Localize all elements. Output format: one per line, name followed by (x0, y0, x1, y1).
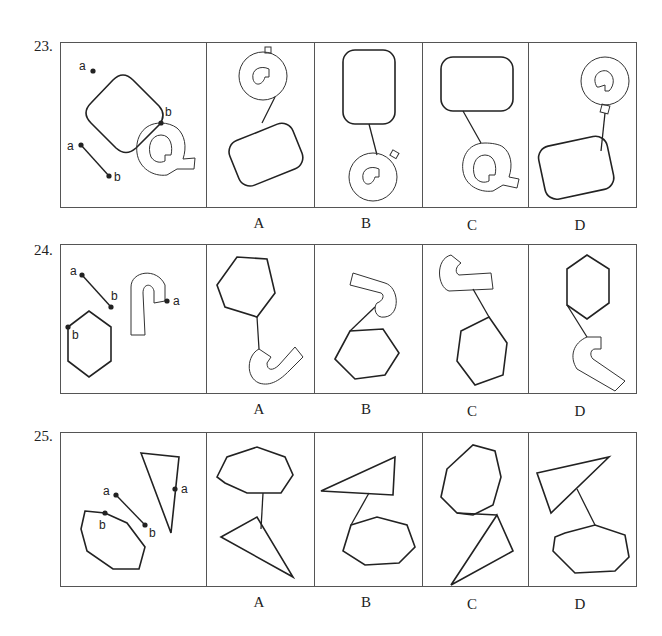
question-number-23: 23. (34, 38, 53, 55)
q24-label-c: C (452, 403, 492, 420)
q23-given-figure: a a b b (61, 43, 206, 209)
svg-text:a: a (181, 482, 188, 496)
q23-option-c[interactable] (422, 43, 529, 207)
question-24-panel: a b b a (60, 244, 637, 394)
q25-option-a[interactable] (206, 433, 315, 586)
q24-option-a[interactable] (206, 245, 315, 393)
q23-label-b: B (346, 215, 386, 232)
svg-text:a: a (79, 59, 86, 73)
svg-text:b: b (114, 170, 121, 184)
q25-option-c-figure (423, 433, 529, 588)
q23-option-a-figure (207, 43, 315, 209)
svg-text:a: a (67, 139, 74, 153)
q23-option-b-figure (315, 43, 423, 209)
question-number-24: 24. (34, 242, 53, 259)
q25-label-b: B (346, 594, 386, 611)
q23-option-c-figure (423, 43, 529, 209)
question-25-panel: a a b b (60, 432, 637, 587)
svg-text:b: b (165, 105, 172, 119)
svg-text:b: b (99, 518, 106, 532)
question-number-25: 25. (34, 428, 53, 445)
q24-option-d-figure (529, 245, 637, 395)
q23-given-cell: a a b b (61, 43, 206, 207)
q25-option-d[interactable] (528, 433, 637, 586)
q23-option-b[interactable] (314, 43, 423, 207)
q25-option-b[interactable] (314, 433, 423, 586)
q24-label-d: D (560, 403, 600, 420)
q24-label-b: B (346, 401, 386, 418)
q24-label-a: A (239, 401, 279, 418)
q24-option-b[interactable] (314, 245, 423, 393)
q24-option-d[interactable] (528, 245, 637, 393)
svg-text:b: b (149, 526, 156, 540)
q23-label-a: A (239, 215, 279, 232)
q24-option-c-figure (423, 245, 529, 395)
svg-text:a: a (173, 294, 180, 308)
q25-option-c[interactable] (422, 433, 529, 586)
svg-text:a: a (70, 264, 77, 278)
q23-label-c: C (452, 217, 492, 234)
q25-label-d: D (560, 596, 600, 613)
q23-option-d-figure (529, 43, 637, 209)
q25-label-c: C (452, 596, 492, 613)
q23-label-d: D (560, 217, 600, 234)
svg-text:a: a (103, 484, 110, 498)
q23-option-d[interactable] (528, 43, 637, 207)
q23-option-a[interactable] (206, 43, 315, 207)
q25-label-a: A (239, 594, 279, 611)
q24-given-figure: a b b a (61, 245, 206, 395)
svg-text:b: b (111, 289, 118, 303)
q24-given-cell: a b b a (61, 245, 206, 393)
q24-option-a-figure (207, 245, 315, 395)
q24-option-b-figure (315, 245, 423, 395)
q25-option-d-figure (529, 433, 637, 588)
q25-option-b-figure (315, 433, 423, 588)
q25-option-a-figure (207, 433, 315, 588)
q24-option-c[interactable] (422, 245, 529, 393)
svg-text:b: b (72, 328, 79, 342)
q25-given-cell: a a b b (61, 433, 206, 586)
q25-given-figure: a a b b (61, 433, 206, 588)
question-23-panel: a a b b (60, 42, 637, 208)
